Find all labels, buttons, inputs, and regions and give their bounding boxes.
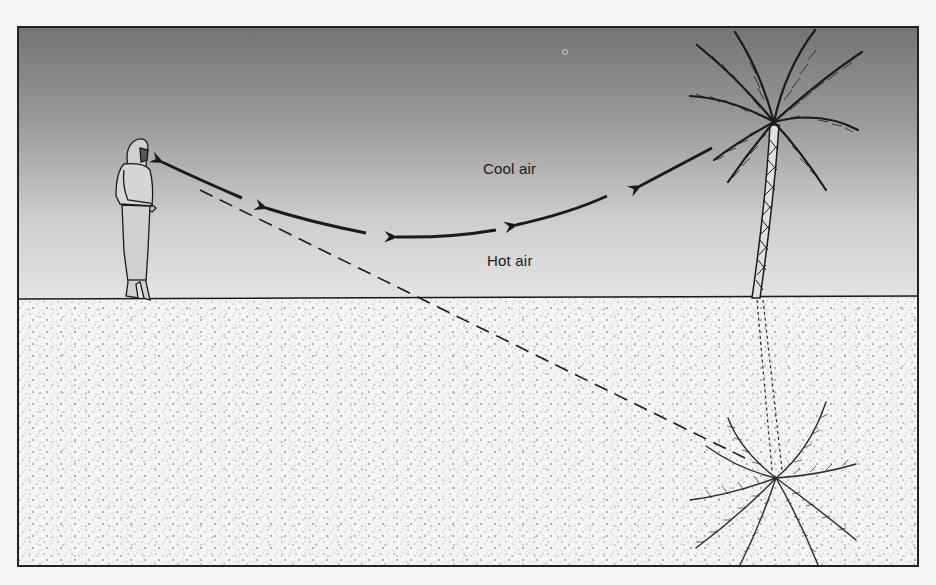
hot-air-label: Hot air: [487, 252, 533, 269]
person-face: [140, 148, 148, 162]
mirage-diagram: [0, 0, 936, 585]
cool-air-label: Cool air: [483, 160, 536, 177]
person-torso: [116, 164, 153, 206]
sky: [18, 27, 918, 299]
